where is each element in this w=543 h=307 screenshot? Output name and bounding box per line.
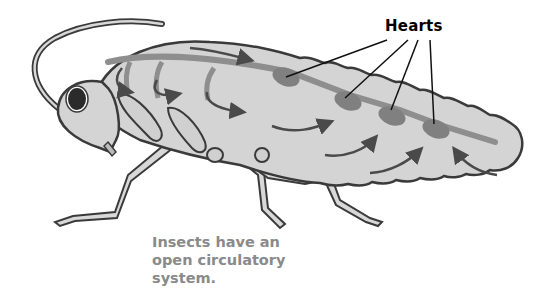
caption-line-1: Insects have an — [152, 233, 285, 251]
caption-line-2: open circulatory — [152, 251, 285, 269]
caption-line-3: system. — [152, 269, 285, 287]
caption: Insects have an open circulatory system. — [152, 233, 285, 287]
insect-head — [58, 81, 119, 156]
insect-diagram: Hearts Insects have an open circulatory … — [0, 0, 543, 307]
hearts-label: Hearts — [385, 17, 443, 35]
